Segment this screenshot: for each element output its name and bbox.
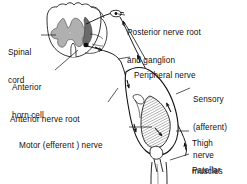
leader-anterior-nerve-root [108, 88, 118, 102]
arrow-sensory-toward-cord-1 [123, 21, 124, 26]
label-patellar-tendon-line1: Patellar [192, 166, 221, 175]
label-posterior-nerve-root-line1: Posterior nerve root [127, 28, 201, 37]
lower-leg-posterior [166, 162, 167, 184]
label-motor-nerve-line1: Motor (efferent ) nerve [19, 141, 103, 150]
leader-patellar-tendon [170, 154, 189, 160]
label-spinal-cord-line1: Spinal [8, 48, 31, 57]
label-motor-nerve: Motor (efferent ) nerve [19, 122, 103, 169]
ganglion-cell-body [115, 12, 117, 14]
reflex-arc-figure: Posterior nerve root and ganglion Spinal… [0, 0, 247, 184]
lower-leg-anterior [151, 162, 152, 184]
patella-bone [150, 146, 163, 159]
patellar-tendon-edge [160, 159, 163, 172]
label-sensory-nerve-line1: Sensory [193, 95, 227, 104]
label-peripheral-nerve: Peripheral nerve [134, 52, 196, 99]
label-anterior-horn-cell-line1: Anterior [12, 83, 44, 92]
anterior-nerve-root-fibre [87, 46, 121, 62]
label-peripheral-nerve-line1: Peripheral nerve [134, 71, 196, 80]
label-patellar-tendon: Patellar tendon [192, 147, 221, 184]
tibia-line [157, 164, 158, 184]
central-canal [69, 32, 71, 34]
patellar-tendon [154, 159, 157, 172]
